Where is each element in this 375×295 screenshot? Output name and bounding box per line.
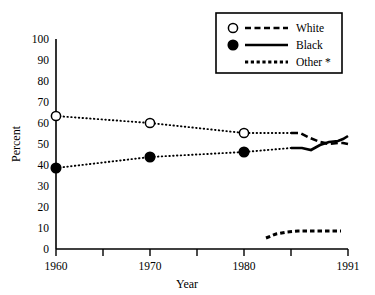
x-tick-1980: 1980 <box>233 260 256 272</box>
y-tick-20: 20 <box>38 201 50 213</box>
x-axis-ticks <box>56 249 348 256</box>
black-marker-1970 <box>145 152 155 162</box>
series-black <box>51 136 348 173</box>
legend-filled-circle-icon <box>228 40 238 50</box>
y-axis-title: Percent <box>9 125 23 162</box>
black-marker-1960 <box>51 163 61 173</box>
x-tick-1991: 1991 <box>337 260 360 272</box>
series-white <box>51 111 348 144</box>
y-tick-40: 40 <box>38 159 50 171</box>
legend-label-black: Black <box>296 39 323 51</box>
x-tick-1960: 1960 <box>45 260 68 272</box>
y-axis-tick-labels: 0 10 20 30 40 50 60 70 80 90 100 <box>32 33 50 255</box>
black-marker-1980 <box>239 147 249 157</box>
x-axis-title: Year <box>176 277 198 291</box>
white-dotted-segment <box>56 116 291 133</box>
legend-open-circle-icon <box>228 23 237 32</box>
white-marker-1970 <box>145 118 154 127</box>
legend-label-white: White <box>296 22 324 34</box>
x-tick-1970: 1970 <box>139 260 162 272</box>
y-tick-50: 50 <box>38 138 50 150</box>
series-other <box>266 231 341 238</box>
y-tick-60: 60 <box>38 117 50 129</box>
legend-label-other: Other * <box>296 56 331 68</box>
chart-container: 0 10 20 30 40 50 60 70 80 90 100 <box>0 0 375 295</box>
y-tick-10: 10 <box>38 222 50 234</box>
y-tick-30: 30 <box>38 180 50 192</box>
y-tick-70: 70 <box>38 96 50 108</box>
white-annual-line <box>291 133 348 144</box>
white-marker-1980 <box>239 128 248 137</box>
x-axis-tick-labels: 1960 1970 1980 1991 <box>45 260 360 272</box>
y-tick-90: 90 <box>38 54 50 66</box>
y-tick-100: 100 <box>32 33 50 45</box>
black-dotted-segment <box>56 148 291 168</box>
y-tick-80: 80 <box>38 75 50 87</box>
y-tick-0: 0 <box>43 243 49 255</box>
legend: White Black Other * <box>216 13 342 73</box>
other-annual-line <box>266 231 341 238</box>
white-marker-1960 <box>51 111 60 120</box>
black-annual-line <box>291 136 348 150</box>
line-chart: 0 10 20 30 40 50 60 70 80 90 100 <box>0 0 375 295</box>
